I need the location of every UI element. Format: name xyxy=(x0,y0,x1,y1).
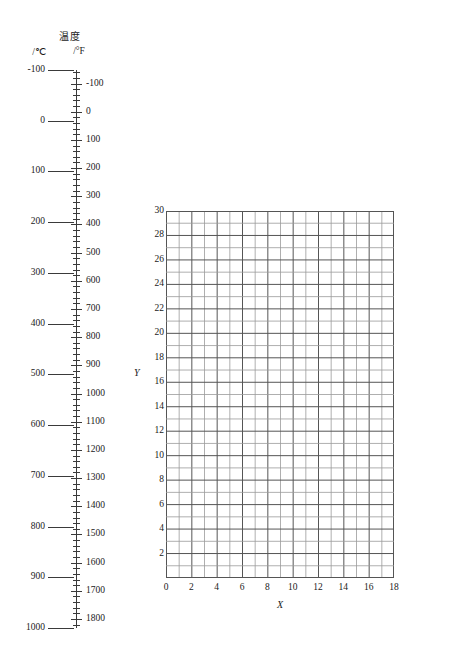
fahrenheit-minor-tick xyxy=(73,546,80,547)
fahrenheit-minor-tick xyxy=(73,270,80,271)
fahrenheit-minor-tick xyxy=(73,123,80,124)
fahrenheit-minor-tick xyxy=(73,354,80,355)
celsius-major-tick xyxy=(48,121,74,122)
temperature-scale-title: 温度 xyxy=(0,28,140,43)
fahrenheit-tick-label: 0 xyxy=(86,107,91,117)
fahrenheit-minor-tick xyxy=(73,540,80,541)
y-axis-tick-label: 20 xyxy=(150,329,164,339)
fahrenheit-minor-tick xyxy=(73,100,80,101)
fahrenheit-minor-tick xyxy=(73,247,80,248)
y-axis-tick-label: 8 xyxy=(150,475,164,485)
fahrenheit-major-tick xyxy=(71,591,82,592)
y-axis-tick-label: 28 xyxy=(150,231,164,241)
fahrenheit-minor-tick xyxy=(73,315,80,316)
fahrenheit-major-tick xyxy=(71,281,82,282)
fahrenheit-minor-tick xyxy=(73,557,80,558)
temperature-unit-celsius: /℃ xyxy=(22,46,56,57)
fahrenheit-tick-label: 1700 xyxy=(86,586,105,596)
fahrenheit-minor-tick xyxy=(73,427,80,428)
fahrenheit-minor-tick xyxy=(73,332,80,333)
x-axis-tick-label: 12 xyxy=(313,583,323,593)
x-axis-tick-label: 18 xyxy=(389,583,399,593)
fahrenheit-minor-tick xyxy=(73,298,80,299)
fahrenheit-minor-tick xyxy=(73,518,80,519)
fahrenheit-minor-tick xyxy=(73,286,80,287)
fahrenheit-minor-tick xyxy=(73,608,80,609)
fahrenheit-minor-tick xyxy=(73,529,80,530)
fahrenheit-minor-tick xyxy=(73,472,80,473)
fahrenheit-minor-tick xyxy=(73,129,80,130)
fahrenheit-tick-label: 700 xyxy=(86,304,100,314)
fahrenheit-major-tick xyxy=(71,84,82,85)
x-axis-tick-label: 10 xyxy=(288,583,298,593)
grid-lines xyxy=(166,211,394,578)
temperature-scale: 温度 /℃ /°F -10001002003004005006007008009… xyxy=(0,0,140,667)
celsius-major-tick xyxy=(48,70,74,71)
fahrenheit-tick-label: 1500 xyxy=(86,530,105,540)
fahrenheit-minor-tick xyxy=(73,157,80,158)
fahrenheit-major-tick xyxy=(71,253,82,254)
fahrenheit-minor-tick xyxy=(73,241,80,242)
fahrenheit-minor-tick xyxy=(73,467,80,468)
celsius-major-tick xyxy=(48,171,74,172)
celsius-tick-label: 1000 xyxy=(0,623,45,633)
fahrenheit-minor-tick xyxy=(73,348,80,349)
celsius-major-tick xyxy=(48,374,74,375)
fahrenheit-major-tick xyxy=(71,450,82,451)
fahrenheit-minor-tick xyxy=(73,439,80,440)
fahrenheit-minor-tick xyxy=(73,151,80,152)
y-axis-tick-label: 14 xyxy=(150,402,164,412)
fahrenheit-major-tick xyxy=(71,563,82,564)
y-axis-tick-label: 24 xyxy=(150,280,164,290)
fahrenheit-minor-tick xyxy=(73,495,80,496)
temperature-unit-fahrenheit: /°F xyxy=(62,46,96,56)
fahrenheit-minor-tick xyxy=(73,202,80,203)
celsius-tick-label: 600 xyxy=(0,420,45,430)
fahrenheit-minor-tick xyxy=(73,613,80,614)
fahrenheit-tick-label: 1300 xyxy=(86,473,105,483)
fahrenheit-minor-tick xyxy=(73,484,80,485)
fahrenheit-minor-tick xyxy=(73,596,80,597)
fahrenheit-major-tick xyxy=(71,112,82,113)
fahrenheit-major-tick xyxy=(71,619,82,620)
fahrenheit-minor-tick xyxy=(73,78,80,79)
fahrenheit-tick-label: 200 xyxy=(86,163,100,173)
fahrenheit-minor-tick xyxy=(73,185,80,186)
fahrenheit-minor-tick xyxy=(73,292,80,293)
x-axis-tick-label: 6 xyxy=(240,583,245,593)
celsius-tick-label: 900 xyxy=(0,573,45,583)
fahrenheit-minor-tick xyxy=(73,258,80,259)
x-axis-tick-label: 16 xyxy=(364,583,374,593)
fahrenheit-minor-tick xyxy=(73,602,80,603)
fahrenheit-minor-tick xyxy=(73,399,80,400)
fahrenheit-tick-label: 900 xyxy=(86,361,100,371)
fahrenheit-minor-tick xyxy=(73,501,80,502)
y-axis-tick-label: 4 xyxy=(150,524,164,534)
y-axis-tick-label: 10 xyxy=(150,451,164,461)
celsius-tick-label: 0 xyxy=(0,116,45,126)
y-axis-tick-label: 12 xyxy=(150,426,164,436)
fahrenheit-major-tick xyxy=(71,337,82,338)
fahrenheit-tick-label: 1400 xyxy=(86,502,105,512)
fahrenheit-tick-label: 1600 xyxy=(86,558,105,568)
fahrenheit-minor-tick xyxy=(73,208,80,209)
fahrenheit-minor-tick xyxy=(73,405,80,406)
fahrenheit-tick-label: 600 xyxy=(86,276,100,286)
x-axis-tick-label: 4 xyxy=(214,583,219,593)
fahrenheit-minor-tick xyxy=(73,134,80,135)
fahrenheit-minor-tick xyxy=(73,213,80,214)
celsius-major-tick xyxy=(48,577,74,578)
y-axis-tick-label: 30 xyxy=(150,206,164,216)
fahrenheit-minor-tick xyxy=(73,410,80,411)
fahrenheit-minor-tick xyxy=(73,146,80,147)
fahrenheit-minor-tick xyxy=(73,382,80,383)
celsius-tick-label: 300 xyxy=(0,268,45,278)
fahrenheit-tick-label: 1200 xyxy=(86,445,105,455)
fahrenheit-minor-tick xyxy=(73,320,80,321)
fahrenheit-major-tick xyxy=(71,309,82,310)
x-axis-title: X xyxy=(166,599,394,610)
fahrenheit-minor-tick xyxy=(73,371,80,372)
plot-area: 024681012141618 246810121416182022242628… xyxy=(166,211,394,578)
fahrenheit-minor-tick xyxy=(73,179,80,180)
celsius-major-tick xyxy=(48,476,74,477)
